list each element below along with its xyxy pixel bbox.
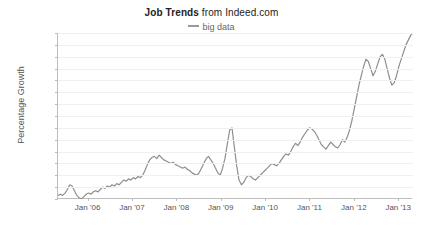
y-tick-mark <box>55 57 58 58</box>
y-tick-mark <box>55 152 58 153</box>
grid-line <box>58 57 413 58</box>
y-tick-mark <box>55 116 58 117</box>
y-axis-label: Percentage Growth <box>16 40 26 170</box>
x-tick-label: Jan '12 <box>334 203 374 212</box>
chart-title-rest: from Indeed.com <box>199 7 278 18</box>
x-tick-label: Jan '11 <box>289 203 329 212</box>
y-tick-mark <box>55 104 58 105</box>
x-tick-label: Jan '10 <box>245 203 285 212</box>
x-tick-mark <box>132 198 133 201</box>
plot-area: 0102030405060708090100110120130140Jan '0… <box>57 33 412 199</box>
x-tick-mark <box>88 198 89 201</box>
grid-line <box>58 116 413 117</box>
y-tick-mark <box>55 33 58 34</box>
y-tick-mark <box>55 163 58 164</box>
grid-line <box>58 69 413 70</box>
job-trends-chart: Job Trends from Indeed.com big data Perc… <box>0 0 423 228</box>
y-tick-mark <box>55 140 58 141</box>
x-tick-label: Jan '07 <box>112 203 152 212</box>
legend-line-swatch <box>188 25 199 27</box>
grid-line <box>58 128 413 129</box>
x-tick-mark <box>398 198 399 201</box>
grid-line <box>58 140 413 141</box>
x-tick-label: Jan '13 <box>378 203 418 212</box>
grid-line <box>58 92 413 93</box>
y-tick-mark <box>55 80 58 81</box>
grid-line <box>58 175 413 176</box>
grid-line <box>58 152 413 153</box>
grid-line <box>58 187 413 188</box>
x-tick-mark <box>309 198 310 201</box>
x-tick-label: Jan '06 <box>68 203 108 212</box>
x-tick-mark <box>265 198 266 201</box>
x-tick-mark <box>354 198 355 201</box>
grid-line <box>58 45 413 46</box>
y-tick-mark <box>55 45 58 46</box>
grid-line <box>58 104 413 105</box>
chart-title-strong: Job Trends <box>145 7 199 18</box>
y-tick-mark <box>55 92 58 93</box>
grid-line <box>58 80 413 81</box>
y-tick-mark <box>55 199 58 200</box>
y-tick-mark <box>55 69 58 70</box>
x-tick-mark <box>176 198 177 201</box>
chart-title: Job Trends from Indeed.com <box>0 7 423 18</box>
chart-legend: big data <box>0 21 423 32</box>
legend-label-big-data: big data <box>202 22 234 32</box>
x-tick-label: Jan '08 <box>156 203 196 212</box>
grid-line <box>58 163 413 164</box>
grid-line <box>58 33 413 34</box>
x-tick-label: Jan '09 <box>201 203 241 212</box>
x-tick-mark <box>221 198 222 201</box>
y-tick-mark <box>55 175 58 176</box>
y-tick-mark <box>55 128 58 129</box>
y-tick-mark <box>55 187 58 188</box>
